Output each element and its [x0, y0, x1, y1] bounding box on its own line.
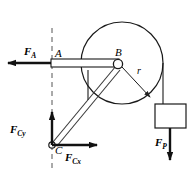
point-label-C: C [55, 145, 62, 156]
force-label-FCx: FCx [65, 152, 81, 166]
point-label-A: A [55, 48, 62, 59]
force-label-FP: FP [155, 137, 167, 151]
force-label-FA: FA [24, 46, 36, 60]
free-body-diagram-figure: A B C r FA FCy FCx FP [0, 0, 194, 175]
force-subscript: Cy [17, 129, 25, 138]
force-subscript: Cx [72, 157, 81, 166]
horizontal-beam-AB [51, 59, 119, 67]
radius-label-r: r [137, 66, 141, 76]
hanging-block [155, 104, 186, 128]
force-label-FCy: FCy [10, 124, 26, 138]
pin-joint-B [113, 59, 122, 68]
force-subscript: A [31, 51, 36, 60]
force-subscript: P [162, 142, 167, 151]
point-label-B: B [115, 47, 122, 58]
